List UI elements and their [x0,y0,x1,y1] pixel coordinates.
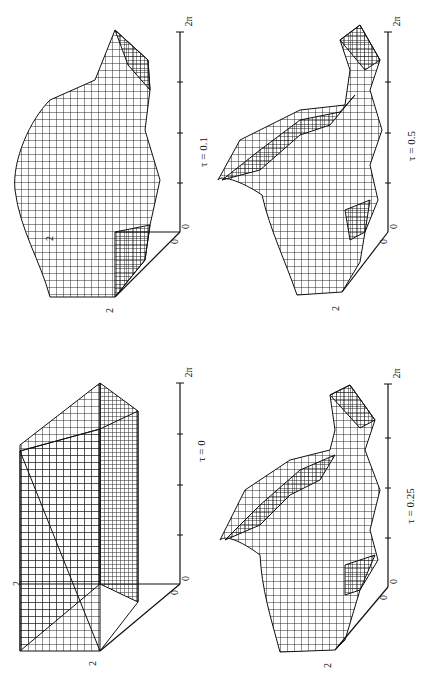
panel-tau-0 [20,383,184,651]
panel-label-tau-0-5: τ = 0.5 [405,131,417,161]
x-tick-end: 2π [391,16,402,26]
x-tick-end: 2π [391,368,402,378]
panel-tau-0-25 [220,384,392,652]
z-label: 2 [44,236,55,241]
depth-tick: 0 [378,239,389,244]
x-tick-start: 0 [180,576,191,581]
panel-tau-0-1 [15,30,184,297]
panel-label-tau-0-25: τ = 0.25 [404,488,416,523]
depth-tick: 0 [169,239,180,244]
depth-label: 2 [87,661,98,666]
x-tick-start: 0 [388,224,399,229]
depth-label: 2 [322,663,333,668]
depth-label: 2 [104,308,115,313]
x-tick-start: 0 [388,579,399,584]
depth-label: 2 [330,306,341,311]
panel-label-tau-0: τ = 0 [195,440,207,462]
x-tick-start: 0 [180,224,191,229]
panel-label-tau-0-1: τ = 0.1 [197,137,209,167]
depth-tick: 0 [169,590,180,595]
x-tick-end: 2π [183,367,194,377]
x-tick-end: 2π [183,16,194,26]
figure-canvas [0,0,435,679]
panel-tau-0-5 [218,25,392,295]
depth-tick: 0 [378,595,389,600]
z-label: 2 [11,581,22,586]
